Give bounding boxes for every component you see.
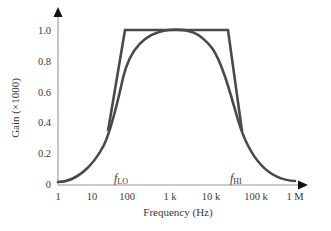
f-lo-subscript: LO — [117, 177, 128, 186]
bandpass-gain-chart: 1.0 0.8 0.6 0.4 0.2 0 1 10 100 1 k 10 k … — [0, 0, 331, 231]
y-tick-labels: 1.0 0.8 0.6 0.4 0.2 0 — [38, 25, 52, 190]
x-tick-label: 10 — [87, 191, 98, 202]
x-tick-label: 1 M — [286, 191, 304, 202]
x-tick-label: 1 k — [163, 191, 177, 202]
x-tick-label: 1 — [55, 191, 60, 202]
f-lo-annotation: fLO — [114, 171, 128, 186]
x-tick-labels: 1 10 100 1 k 10 k 100 k 1 M — [55, 191, 304, 202]
ideal-response-line — [108, 30, 242, 131]
y-tick-label: 0.6 — [38, 87, 51, 98]
y-axis-arrow-icon — [54, 7, 63, 17]
actual-response-curve — [58, 30, 295, 182]
y-tick-label: 0.4 — [38, 117, 52, 128]
y-axis-title: Gain (×1000) — [9, 78, 22, 138]
y-tick-label: 1.0 — [38, 25, 51, 36]
y-tick-label: 0 — [46, 179, 51, 190]
y-tick-label: 0.2 — [38, 148, 51, 159]
x-tick-label: 100 k — [244, 191, 268, 202]
x-tick-label: 10 k — [202, 191, 221, 202]
f-hi-annotation: fHI — [230, 171, 242, 186]
x-axis-title: Frequency (Hz) — [143, 206, 213, 219]
x-tick-label: 100 — [119, 191, 135, 202]
y-tick-label: 0.8 — [38, 56, 51, 67]
f-hi-subscript: HI — [233, 177, 242, 186]
x-axis-arrow-icon — [298, 181, 308, 190]
